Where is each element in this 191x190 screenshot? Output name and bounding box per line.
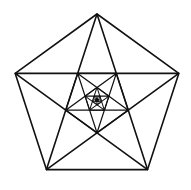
nested-pentagram-diagram (0, 0, 191, 190)
canvas-background (0, 0, 191, 190)
